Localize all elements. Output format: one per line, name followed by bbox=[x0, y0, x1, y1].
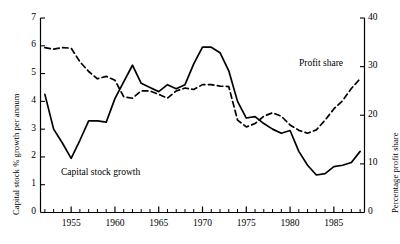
right-tick-label-40: 40 bbox=[368, 12, 378, 22]
x-tick-label-1980: 1980 bbox=[275, 218, 305, 228]
x-tick-label-1975: 1975 bbox=[231, 218, 261, 228]
x-tick-label-1965: 1965 bbox=[144, 218, 174, 228]
left-tick-label-5: 5 bbox=[24, 67, 36, 77]
right-tick-label-10: 10 bbox=[368, 157, 378, 167]
x-tick-label-1985: 1985 bbox=[319, 218, 349, 228]
left-tick-label-4: 4 bbox=[24, 95, 36, 105]
left-tick-label-3: 3 bbox=[24, 123, 36, 133]
x-axis-major-ticks bbox=[71, 207, 334, 213]
left-tick-label-1: 1 bbox=[24, 178, 36, 188]
left-axis-title: Capital stock % growth per annum bbox=[11, 94, 21, 215]
x-tick-label-1970: 1970 bbox=[188, 218, 218, 228]
left-tick-label-7: 7 bbox=[24, 12, 36, 22]
right-tick-label-0: 0 bbox=[368, 206, 373, 216]
x-tick-label-1960: 1960 bbox=[100, 218, 130, 228]
right-axis-ticks bbox=[360, 18, 365, 213]
series-annotation-capital-stock-growth: Capital stock growth bbox=[61, 167, 140, 177]
left-tick-label-6: 6 bbox=[24, 39, 36, 49]
left-tick-label-0: 0 bbox=[24, 206, 36, 216]
right-tick-label-20: 20 bbox=[368, 109, 378, 119]
x-tick-label-1955: 1955 bbox=[56, 218, 86, 228]
right-tick-label-30: 30 bbox=[368, 60, 378, 70]
right-axis-title: Percentage profit share bbox=[390, 132, 400, 213]
left-tick-label-2: 2 bbox=[24, 150, 36, 160]
series-annotation-profit-share: Profit share bbox=[299, 58, 343, 68]
